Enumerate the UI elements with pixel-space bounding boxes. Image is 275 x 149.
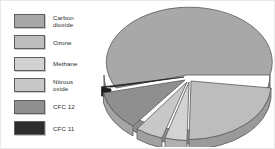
legend-swatch-methane [14, 57, 45, 71]
legend-swatch-ozone [14, 35, 45, 49]
legend-label-cfc-11: CFC 11 [53, 125, 74, 132]
legend-label-carbon-dioxide: Carbon dioxide [53, 14, 74, 28]
legend-item[interactable]: Carbon dioxide [14, 10, 106, 32]
pie-chart-graphic [99, 5, 275, 147]
pie-svg [99, 5, 275, 147]
legend-swatch-cfc-12 [14, 100, 45, 114]
legend-label-cfc-12: CFC 12 [53, 103, 75, 110]
legend-item[interactable]: CFC 12 [14, 96, 106, 118]
legend-swatch-carbon-dioxide [14, 14, 45, 28]
legend-item[interactable]: CFC 11 [14, 118, 106, 140]
legend-item[interactable]: Nitrous oxide [14, 75, 106, 97]
pie-slice-ozone-group[interactable] [189, 81, 271, 147]
pie-chart-figure: Carbon dioxide Ozone Methane Nitrous oxi… [0, 0, 275, 149]
pie-slice-carbon-dioxide-group[interactable] [106, 7, 272, 88]
legend-label-methane: Methane [53, 60, 78, 67]
pie-slice-ozone [189, 81, 271, 140]
pie-slice-carbon-dioxide [106, 7, 272, 88]
legend-label-nitrous-oxide: Nitrous oxide [53, 78, 73, 92]
legend-swatch-cfc-11 [14, 121, 45, 135]
legend-item[interactable]: Methane [14, 53, 106, 75]
legend-item[interactable]: Ozone [14, 32, 106, 54]
chart-legend: Carbon dioxide Ozone Methane Nitrous oxi… [14, 10, 106, 139]
legend-label-ozone: Ozone [53, 39, 72, 46]
legend-swatch-nitrous-oxide [14, 78, 45, 92]
